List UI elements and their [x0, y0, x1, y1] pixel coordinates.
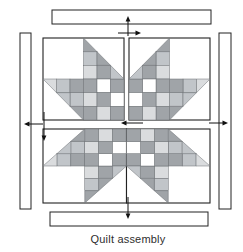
patch-square: [182, 154, 196, 166]
patch-square: [97, 79, 111, 93]
quilt-assembly-diagram: [0, 0, 243, 252]
patch-square: [129, 93, 143, 107]
patch-square: [85, 141, 99, 153]
patch-square: [154, 154, 168, 166]
patch-square: [85, 178, 99, 190]
patch-square: [129, 79, 143, 93]
patch-square: [127, 141, 141, 153]
patch-square: [156, 65, 170, 79]
patch-square: [143, 106, 157, 120]
patch-square: [170, 79, 184, 93]
patch-square: [57, 154, 71, 166]
patch-square: [70, 93, 84, 107]
patch-square: [113, 141, 127, 153]
patch-square: [111, 79, 125, 93]
patch-square: [84, 93, 98, 107]
patch-square: [84, 65, 98, 79]
patch-square: [154, 178, 168, 190]
patch-square: [71, 154, 85, 166]
patch-square: [140, 166, 154, 178]
patch-square: [140, 141, 154, 153]
patch-square: [99, 129, 113, 141]
patch-square: [85, 154, 99, 166]
patch-square: [154, 141, 168, 153]
patch-square: [99, 141, 113, 153]
caption: Quilt assembly: [13, 233, 243, 245]
patch-square: [99, 154, 113, 166]
patch-square: [143, 93, 157, 107]
patch-square: [129, 106, 143, 120]
patch-square: [168, 141, 182, 153]
patch-square: [156, 79, 170, 93]
patch-square: [97, 65, 111, 79]
patch-square: [84, 52, 98, 66]
patch-square: [99, 166, 113, 178]
patch-square: [140, 129, 154, 141]
patch-square: [57, 79, 71, 93]
patch-square: [97, 106, 111, 120]
patch-square: [168, 154, 182, 166]
patch-square: [127, 129, 141, 141]
top-border-strip: [52, 10, 211, 24]
patch-square: [113, 129, 127, 141]
patch-square: [154, 166, 168, 178]
quilt-assembly-page: Quilt assembly: [0, 0, 243, 252]
patch-square: [85, 166, 99, 178]
left-border-strip: [20, 33, 31, 209]
patch-square: [156, 93, 170, 107]
patch-square: [127, 154, 141, 166]
patch-square: [156, 52, 170, 66]
patch-square: [113, 154, 127, 166]
patch-square: [183, 79, 197, 93]
patch-square: [97, 93, 111, 107]
patch-square: [111, 106, 125, 120]
bottom-row-seam-arrow-head: [121, 121, 127, 126]
top-row-seam-arrow-head: [136, 31, 142, 36]
patch-square: [71, 141, 85, 153]
patch-square: [70, 79, 84, 93]
patch-square: [85, 129, 99, 141]
patch-square: [111, 93, 125, 107]
patch-square: [84, 79, 98, 93]
patch-square: [154, 129, 168, 141]
patch-square: [143, 79, 157, 93]
patch-square: [84, 106, 98, 120]
patch-square: [156, 106, 170, 120]
patch-square: [143, 65, 157, 79]
patch-square: [170, 93, 184, 107]
right-border-strip: [219, 33, 231, 209]
patch-square: [140, 154, 154, 166]
